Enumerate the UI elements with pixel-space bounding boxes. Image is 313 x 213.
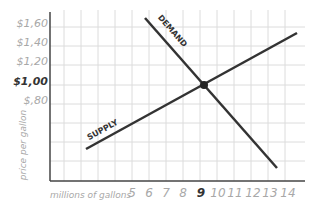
x-tick-label: 5: [124, 186, 140, 200]
equilibrium-point: [200, 81, 208, 89]
x-tick-label: 11: [227, 186, 243, 200]
x-axis-title: millions of gallons: [50, 190, 131, 200]
y-tick-label: $1,20: [17, 55, 49, 68]
y-tick-label: $1,60: [17, 17, 49, 30]
x-tick-label: 6: [141, 186, 157, 200]
x-tick-label: 12: [245, 186, 261, 200]
y-tick-label-highlight: $1,00: [13, 75, 48, 88]
x-tick-label: 13: [262, 186, 278, 200]
supply-demand-chart: $1,60 $1,40 $1,20 $1,00 $,80 price per g…: [0, 0, 313, 213]
y-tick-label: $,80: [24, 94, 49, 107]
x-tick-label: 10: [210, 186, 226, 200]
y-tick-label: $1,40: [17, 36, 49, 49]
demand-line: [145, 18, 277, 168]
x-tick-label: 7: [158, 186, 174, 200]
y-axis-title: price per gallon: [18, 110, 28, 181]
x-tick-label: 14: [280, 186, 296, 200]
x-tick-label: 8: [175, 186, 191, 200]
supply-line: [86, 33, 297, 149]
x-tick-label-highlight: 9: [193, 186, 209, 200]
